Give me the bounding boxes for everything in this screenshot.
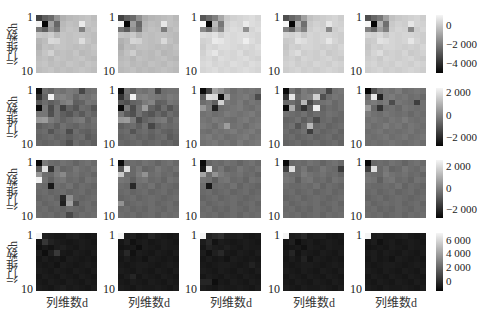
y-tick-bottom: 10 <box>185 138 197 150</box>
y-tick-bottom: 10 <box>185 65 197 77</box>
y-tick-bottom: 10 <box>21 210 33 222</box>
y-tick-top: 1 <box>274 229 280 241</box>
heatmap-cell <box>255 285 261 291</box>
y-tick-bottom: 10 <box>103 65 115 77</box>
heatmap-cell <box>420 212 426 218</box>
y-tick-bottom: 10 <box>103 138 115 150</box>
colorbar-tick: 0 <box>446 20 452 31</box>
y-tick-bottom: 10 <box>21 138 33 150</box>
heatmap-cell <box>255 140 261 146</box>
heatmap-cell <box>338 140 344 146</box>
colorbar-tick: 0 <box>446 110 452 121</box>
heatmap-cell <box>420 285 426 291</box>
heatmap-panel <box>283 15 344 73</box>
heatmap-cell <box>91 212 97 218</box>
heatmap-panel <box>36 88 97 146</box>
y-tick-top: 1 <box>109 11 115 23</box>
x-axis-label: 列维数d <box>196 293 266 311</box>
y-tick-bottom: 10 <box>268 210 280 222</box>
y-tick-bottom: 10 <box>21 65 33 77</box>
y-tick-top: 1 <box>109 84 115 96</box>
y-tick-bottom: 10 <box>350 138 362 150</box>
y-tick-bottom: 10 <box>185 210 197 222</box>
colorbar-tick: 0 <box>446 276 452 287</box>
y-tick-top: 1 <box>356 84 362 96</box>
y-tick-top: 1 <box>274 84 280 96</box>
heatmap-cell <box>91 67 97 73</box>
y-tick-bottom: 10 <box>350 65 362 77</box>
heatmap-panel <box>36 160 97 218</box>
colorbar-tick: −4 000 <box>446 58 477 69</box>
heatmap-panel <box>36 233 97 291</box>
y-tick-top: 1 <box>109 156 115 168</box>
heatmap-panel <box>365 233 426 291</box>
colorbar-tick: 6 000 <box>446 235 471 246</box>
colorbar <box>436 15 443 73</box>
heatmap-cell <box>91 285 97 291</box>
colorbar-tick: −2 000 <box>446 39 477 50</box>
y-tick-top: 1 <box>356 11 362 23</box>
y-tick-top: 1 <box>27 229 33 241</box>
heatmap-cell <box>173 67 179 73</box>
y-tick-top: 1 <box>191 156 197 168</box>
x-axis-label: 列维数d <box>361 293 431 311</box>
colorbar <box>436 160 443 218</box>
heatmap-panel <box>36 15 97 73</box>
y-tick-top: 1 <box>356 229 362 241</box>
colorbar-tick: −2 000 <box>446 132 477 143</box>
colorbar-tick: 2 000 <box>446 161 471 172</box>
heatmap-panel <box>118 160 179 218</box>
heatmap-panel <box>283 88 344 146</box>
x-axis-label: 列维数d <box>32 293 102 311</box>
colorbar-tick: 2 000 <box>446 87 471 98</box>
colorbar-tick: 0 <box>446 183 452 194</box>
y-tick-top: 1 <box>356 156 362 168</box>
y-tick-top: 1 <box>191 229 197 241</box>
heatmap-panel <box>283 233 344 291</box>
heatmap-cell <box>420 67 426 73</box>
heatmap-panel <box>200 160 261 218</box>
heatmap-cell <box>255 67 261 73</box>
colorbar-tick: −2 000 <box>446 204 477 215</box>
heatmap-panel <box>365 15 426 73</box>
heatmap-panel <box>200 88 261 146</box>
y-tick-top: 1 <box>191 84 197 96</box>
heatmap-cell <box>255 212 261 218</box>
heatmap-panel <box>118 88 179 146</box>
colorbar-tick: 4 000 <box>446 248 471 259</box>
y-tick-top: 1 <box>27 84 33 96</box>
x-axis-label: 列维数d <box>114 293 184 311</box>
heatmap-cell <box>338 67 344 73</box>
y-tick-top: 1 <box>27 11 33 23</box>
heatmap-cell <box>91 140 97 146</box>
y-axis-label: 行维数h <box>4 241 21 283</box>
colorbar-tick: 2 000 <box>446 262 471 273</box>
x-axis-label: 列维数d <box>279 293 349 311</box>
heatmap-panel <box>118 15 179 73</box>
heatmap-cell <box>420 140 426 146</box>
heatmap-panel <box>118 233 179 291</box>
heatmap-cell <box>338 212 344 218</box>
heatmap-cell <box>338 285 344 291</box>
heatmap-panel <box>365 88 426 146</box>
y-axis-label: 行维数h <box>4 168 21 210</box>
y-tick-top: 1 <box>274 11 280 23</box>
heatmap-cell <box>173 212 179 218</box>
heatmap-cell <box>173 140 179 146</box>
heatmap-panel <box>365 160 426 218</box>
y-tick-bottom: 10 <box>268 65 280 77</box>
heatmap-cell <box>173 285 179 291</box>
y-tick-top: 1 <box>27 156 33 168</box>
y-axis-label: 行维数h <box>4 96 21 138</box>
y-tick-top: 1 <box>109 229 115 241</box>
heatmap-panel <box>200 15 261 73</box>
y-tick-top: 1 <box>274 156 280 168</box>
y-tick-bottom: 10 <box>350 210 362 222</box>
y-tick-top: 1 <box>191 11 197 23</box>
heatmap-panel <box>283 160 344 218</box>
y-tick-bottom: 10 <box>268 138 280 150</box>
heatmap-panel <box>200 233 261 291</box>
y-axis-label: 行维数h <box>4 23 21 65</box>
colorbar <box>436 233 443 291</box>
colorbar <box>436 88 443 146</box>
